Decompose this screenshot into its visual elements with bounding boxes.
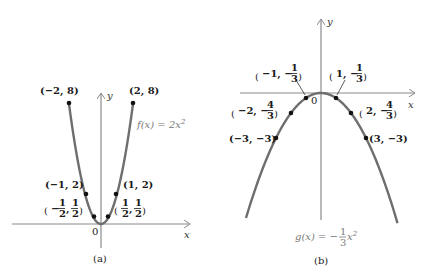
svg-text:x2: x2 [347,230,358,242]
svg-text:3: 3 [356,73,363,84]
svg-text:3: 3 [386,110,393,121]
y-axis-label-a: y [106,90,113,101]
svg-text:2: 2 [72,208,79,219]
svg-text:): ) [393,108,397,119]
svg-text:4: 4 [267,99,274,110]
svg-text:3: 3 [340,237,346,248]
point-3-neg3 [364,136,369,141]
svg-text:1: 1 [59,197,66,208]
label-half-half: ( 1 2 , 1 2 ) [114,197,146,219]
svg-text:): ) [79,205,83,216]
figure: y x 0 (−2, 8) (2, 8) (−1, 2) (1, 2) ( − … [0,0,427,275]
point-neg1-neg1third [304,96,309,101]
panel-a: y x 0 (−2, 8) (2, 8) (−1, 2) (1, 2) ( − … [12,85,190,264]
svg-text:1: 1 [356,62,363,73]
svg-text:−1, −: −1, − [262,68,293,80]
label-neg1-2: (−1, 2) [45,179,84,191]
label-neg1-neg1third: ( −1, − 1 3 ) [255,62,302,84]
svg-text:,: , [66,203,69,215]
svg-text:): ) [274,108,278,119]
svg-text:−2, −: −2, − [238,105,269,117]
point-1-2 [114,192,119,197]
svg-text:(: ( [114,205,118,216]
caption-b: (b) [314,255,328,266]
function-label-f: f(x) = 2x2 [136,118,186,130]
point-neg1-2 [84,192,89,197]
svg-text:(: ( [255,71,259,82]
label-neg3-neg3: (−3, −3) [229,133,276,145]
point-neg2-8 [67,101,72,106]
y-axis-label-b: y [326,16,333,27]
svg-text:): ) [298,71,302,82]
point-neghalf-half [92,214,97,219]
label-1-2: (1, 2) [123,179,153,191]
point-half-half [106,214,111,219]
svg-text:f(x) = 2x2: f(x) = 2x2 [136,118,186,130]
point-2-8 [131,101,136,106]
point-neg2-neg4thirds [289,111,294,116]
svg-text:,: , [129,203,132,215]
panel-b: y x 0 ( −1, − 1 3 ) ( 1, − 1 3 [229,16,415,266]
svg-text:): ) [363,71,367,82]
svg-text:1: 1 [291,62,298,73]
svg-text:2: 2 [122,208,129,219]
label-neg2-8: (−2, 8) [40,85,79,97]
svg-text:(: ( [44,205,48,216]
label-neg2-neg4thirds: ( −2, − 4 3 ) [231,99,278,121]
label-3-neg3: (3, −3) [369,133,408,145]
svg-text:): ) [142,205,146,216]
svg-text:1: 1 [135,197,142,208]
label-2-neg4thirds: ( 2, − 4 3 ) [359,99,397,121]
origin-label-b: 0 [311,95,317,106]
origin-label-a: 0 [92,226,98,237]
svg-text:1: 1 [122,197,129,208]
svg-text:(: ( [329,71,333,82]
x-axis-label-a: x [184,229,190,240]
svg-text:(: ( [231,108,235,119]
svg-text:g(x) = −: g(x) = − [295,231,338,242]
svg-text:(: ( [359,108,363,119]
label-neghalf-half: ( − 1 2 , 1 2 ) [44,197,83,219]
svg-text:1: 1 [340,226,346,237]
svg-text:1: 1 [72,197,79,208]
label-2-8: (2, 8) [129,85,159,97]
point-1-neg1third [334,96,339,101]
svg-text:2, −: 2, − [366,105,388,117]
svg-text:3: 3 [291,73,298,84]
svg-text:1, −: 1, − [336,68,358,80]
svg-text:2: 2 [59,208,66,219]
label-1-neg1third: ( 1, − 1 3 ) [329,62,367,84]
svg-text:4: 4 [386,99,393,110]
svg-text:3: 3 [267,110,274,121]
x-axis-label-b: x [408,99,414,110]
svg-text:2: 2 [135,208,142,219]
point-2-neg4thirds [349,111,354,116]
function-label-g: g(x) = − 1 3 x2 [295,226,358,248]
caption-a: (a) [93,253,107,264]
